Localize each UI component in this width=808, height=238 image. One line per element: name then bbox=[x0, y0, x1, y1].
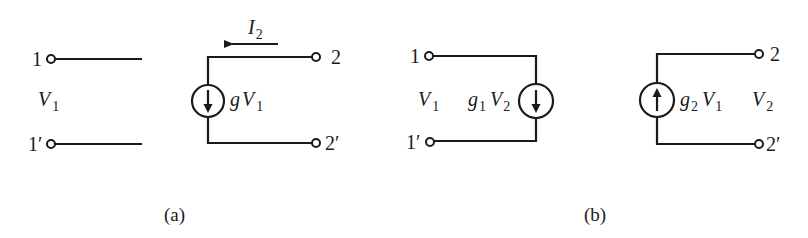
caption-b: (b) bbox=[584, 204, 606, 226]
current-source-icon bbox=[192, 85, 224, 117]
port1-voltage-label: V1 bbox=[418, 88, 439, 114]
right-bottom-wire bbox=[657, 117, 755, 144]
caption-a: (a) bbox=[164, 204, 185, 226]
terminal-2-label: 2 bbox=[331, 46, 341, 68]
port2-voltage-label: V2 bbox=[752, 88, 773, 114]
current-source-left-icon bbox=[519, 84, 553, 118]
left-bottom-wire bbox=[434, 118, 536, 141]
terminal-1-node bbox=[425, 52, 433, 60]
terminal-1-label: 1 bbox=[410, 45, 420, 67]
left-top-wire bbox=[433, 56, 536, 84]
terminal-2-label: 2 bbox=[770, 43, 780, 65]
terminal-2p-node bbox=[312, 139, 320, 147]
terminal-1-label: 1 bbox=[32, 48, 42, 70]
circuit-diagram: 1 1′ V1 I2 gV1 2 2′ (a) 1 1′ V1 bbox=[0, 0, 808, 238]
current-source-right-icon bbox=[640, 83, 674, 117]
terminal-1-node bbox=[47, 55, 55, 63]
panel-a: 1 1′ V1 I2 gV1 2 2′ (a) bbox=[28, 16, 341, 226]
current-label: I2 bbox=[247, 16, 263, 42]
terminal-1p-node bbox=[426, 138, 434, 146]
source-label: gV1 bbox=[230, 88, 263, 114]
panel-b: 1 1′ V1 g1V2 g2V1 V2 2 2′ (b) bbox=[406, 43, 780, 226]
port2-bottom-wire bbox=[208, 117, 312, 143]
source-left-label: g1V2 bbox=[468, 88, 510, 114]
terminal-2-node bbox=[312, 53, 320, 61]
terminal-1p-label: 1′ bbox=[406, 131, 420, 153]
source-right-label: g2V1 bbox=[680, 88, 722, 114]
terminal-1p-label: 1′ bbox=[28, 133, 42, 155]
port1-voltage-label: V1 bbox=[38, 88, 59, 114]
terminal-2p-label: 2′ bbox=[325, 132, 339, 154]
right-top-wire bbox=[657, 54, 755, 83]
terminal-2p-label: 2′ bbox=[766, 133, 780, 155]
terminal-1p-node bbox=[47, 140, 55, 148]
terminal-2-node bbox=[755, 50, 763, 58]
terminal-2p-node bbox=[755, 140, 763, 148]
port2-top-wire bbox=[208, 57, 312, 85]
